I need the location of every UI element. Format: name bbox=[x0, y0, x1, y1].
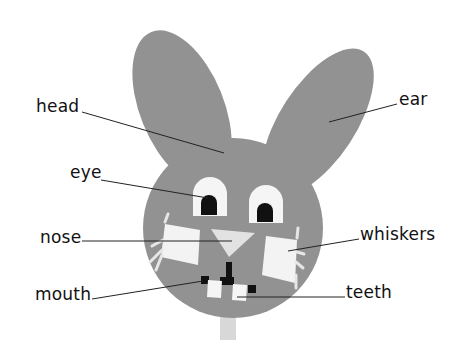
label-ear: ear bbox=[399, 91, 427, 108]
label-teeth: teeth bbox=[346, 284, 392, 301]
label-whiskers: whiskers bbox=[360, 226, 435, 243]
label-eye: eye bbox=[70, 164, 102, 181]
label-nose: nose bbox=[40, 229, 81, 246]
label-head: head bbox=[36, 98, 79, 115]
label-mouth: mouth bbox=[35, 286, 91, 303]
right-eye bbox=[249, 185, 283, 223]
bunny-diagram: head ear eye nose whiskers mouth teeth bbox=[0, 0, 457, 340]
